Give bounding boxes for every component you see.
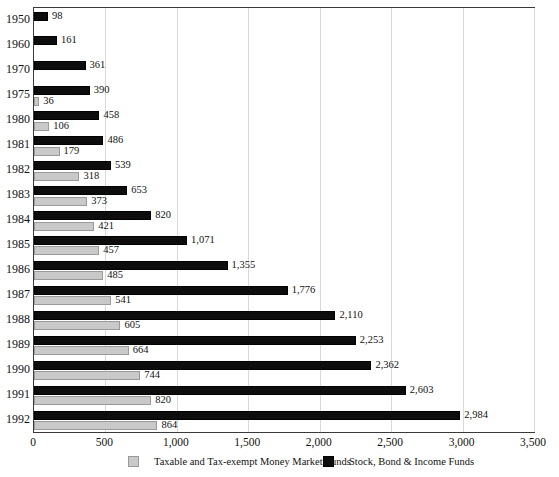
value-tick-label: 1,000 (163, 436, 189, 448)
category-label-1970: 1970 (6, 63, 30, 75)
value-tick-label: 2,000 (306, 436, 332, 448)
gridline (534, 8, 535, 432)
legend-label: Stock, Bond & Income Funds (349, 456, 474, 467)
bar-stock-bond-income[interactable] (34, 411, 460, 420)
plot-area: 9816136139036458106486179539318653373820… (33, 7, 535, 433)
category-label-1988: 1988 (6, 313, 30, 325)
chart-legend: Taxable and Tax-exempt Money Market Fund… (0, 456, 559, 472)
bar-value-label: 361 (90, 60, 106, 69)
bar-value-label: 820 (155, 210, 171, 219)
bar-row: 2,253664 (34, 332, 534, 357)
bar-money-market[interactable] (34, 222, 94, 231)
legend-item[interactable]: Taxable and Tax-exempt Money Market Fund… (128, 456, 351, 467)
bar-value-label: 2,110 (339, 310, 362, 319)
bar-value-label: 98 (52, 11, 63, 20)
category-label-1950: 1950 (6, 13, 30, 25)
bar-row: 458106 (34, 108, 534, 133)
bar-money-market[interactable] (34, 197, 87, 206)
bar-stock-bond-income[interactable] (34, 361, 371, 370)
legend-swatch-dark (323, 456, 334, 467)
category-label-1991: 1991 (6, 388, 30, 400)
bar-stock-bond-income[interactable] (34, 136, 103, 145)
legend-item[interactable]: Stock, Bond & Income Funds (323, 456, 474, 467)
bar-row: 2,603820 (34, 382, 534, 407)
bar-stock-bond-income[interactable] (34, 12, 48, 21)
bar-row: 653373 (34, 183, 534, 208)
legend-swatch-gray (128, 456, 139, 467)
bar-value-label: 2,362 (375, 360, 399, 369)
bar-row: 1,071457 (34, 232, 534, 257)
bar-value-label: 2,603 (410, 385, 434, 394)
bar-money-market[interactable] (34, 421, 157, 430)
bar-value-label: 2,984 (464, 410, 488, 419)
bar-value-label: 457 (103, 245, 119, 254)
bar-value-label: 421 (98, 221, 114, 230)
category-label-1960: 1960 (6, 38, 30, 50)
bar-row: 486179 (34, 133, 534, 158)
bar-stock-bond-income[interactable] (34, 311, 335, 320)
bar-money-market[interactable] (34, 296, 111, 305)
bar-value-label: 1,355 (232, 260, 256, 269)
bar-stock-bond-income[interactable] (34, 336, 356, 345)
bar-stock-bond-income[interactable] (34, 86, 90, 95)
bar-value-label: 106 (53, 121, 69, 130)
bar-row: 361 (34, 58, 534, 83)
category-label-1990: 1990 (6, 363, 30, 375)
bar-money-market[interactable] (34, 172, 79, 181)
bar-row: 1,355485 (34, 257, 534, 282)
category-label-1975: 1975 (6, 88, 30, 100)
bar-value-label: 1,776 (292, 285, 316, 294)
bar-value-label: 541 (115, 295, 131, 304)
bar-value-label: 664 (133, 345, 149, 354)
category-label-1980: 1980 (6, 113, 30, 125)
bar-stock-bond-income[interactable] (34, 186, 127, 195)
bar-stock-bond-income[interactable] (34, 61, 86, 70)
category-label-1987: 1987 (6, 288, 30, 300)
bar-row: 1,776541 (34, 282, 534, 307)
bar-money-market[interactable] (34, 246, 99, 255)
bar-row: 2,984864 (34, 407, 534, 432)
category-label-1983: 1983 (6, 188, 30, 200)
bar-stock-bond-income[interactable] (34, 286, 288, 295)
bar-row: 539318 (34, 158, 534, 183)
value-tick-label: 3,000 (449, 436, 475, 448)
bar-row: 820421 (34, 208, 534, 233)
bar-value-label: 458 (103, 110, 119, 119)
bar-row: 39036 (34, 83, 534, 108)
bar-value-label: 373 (91, 196, 107, 205)
category-label-1982: 1982 (6, 163, 30, 175)
bar-row: 2,110605 (34, 307, 534, 332)
bar-money-market[interactable] (34, 147, 60, 156)
bar-stock-bond-income[interactable] (34, 261, 228, 270)
bar-stock-bond-income[interactable] (34, 386, 406, 395)
bar-row: 161 (34, 33, 534, 58)
value-tick-label: 1,500 (234, 436, 260, 448)
bar-value-label: 605 (124, 320, 140, 329)
category-label-1989: 1989 (6, 338, 30, 350)
bar-rows: 9816136139036458106486179539318653373820… (34, 8, 534, 432)
bar-money-market[interactable] (34, 271, 103, 280)
bar-money-market[interactable] (34, 396, 151, 405)
bar-stock-bond-income[interactable] (34, 36, 57, 45)
bar-money-market[interactable] (34, 321, 120, 330)
bar-money-market[interactable] (34, 371, 140, 380)
bar-row: 2,362744 (34, 357, 534, 382)
chart-title-text: Growth of Mutual Fund Assets (60, 0, 232, 4)
value-tick-label: 3,500 (520, 436, 546, 448)
bar-money-market[interactable] (34, 346, 129, 355)
bar-row: 98 (34, 8, 534, 33)
bar-money-market[interactable] (34, 122, 49, 131)
category-label-1986: 1986 (6, 263, 30, 275)
chart-title-cropped: Growth of Mutual Fund Assets (0, 0, 559, 6)
bar-value-label: 486 (107, 135, 123, 144)
bar-stock-bond-income[interactable] (34, 161, 111, 170)
category-label-1981: 1981 (6, 138, 30, 150)
value-axis-ticks: 05001,0001,5002,0002,5003,0003,500 (0, 436, 559, 452)
legend-label: Taxable and Tax-exempt Money Market Fund… (154, 456, 351, 467)
bar-stock-bond-income[interactable] (34, 211, 151, 220)
bar-money-market[interactable] (34, 97, 39, 106)
category-label-1985: 1985 (6, 238, 30, 250)
bar-value-label: 318 (83, 171, 99, 180)
bar-value-label: 744 (144, 370, 160, 379)
bar-stock-bond-income[interactable] (34, 111, 99, 120)
